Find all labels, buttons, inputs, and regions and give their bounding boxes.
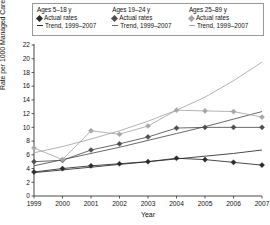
y-axis-tick-label: 22 bbox=[23, 41, 31, 48]
y-axis-tick-label: 18 bbox=[23, 69, 31, 76]
data-point-marker bbox=[117, 141, 122, 146]
data-point-marker bbox=[231, 125, 236, 130]
legend-entry-actual: Actual rates bbox=[37, 14, 108, 22]
data-point-marker bbox=[259, 163, 264, 168]
data-point-marker bbox=[117, 132, 122, 137]
legend-group-ages-5-18: Ages 5–18 y Actual rates Trend, 1999–200… bbox=[33, 4, 108, 35]
data-point-marker bbox=[174, 156, 179, 161]
legend-entry-actual: Actual rates bbox=[112, 14, 185, 22]
data-point-marker bbox=[117, 161, 122, 166]
x-axis-tick-label: 2007 bbox=[255, 200, 270, 207]
legend-group-title: Ages 19–24 y bbox=[112, 6, 185, 14]
data-point-marker bbox=[202, 157, 207, 162]
chart-canvas: 0246810121416182022199920002001200220032… bbox=[0, 38, 270, 225]
y-axis-tick-label: 10 bbox=[23, 124, 31, 131]
legend-entry-label: Trend, 1999–2007 bbox=[45, 22, 96, 30]
line-swatch-icon bbox=[37, 25, 43, 26]
data-point-marker bbox=[88, 147, 93, 152]
y-axis-tick-label: 8 bbox=[26, 137, 30, 144]
y-axis-tick-label: 20 bbox=[23, 55, 31, 62]
legend-entry-label: Trend, 1999–2007 bbox=[120, 22, 171, 30]
data-point-marker bbox=[174, 125, 179, 130]
x-axis-tick-label: 2006 bbox=[226, 200, 241, 207]
data-point-marker bbox=[202, 125, 207, 130]
legend-entry-actual: Actual rates bbox=[189, 14, 263, 22]
data-point-marker bbox=[31, 145, 36, 150]
y-axis-tick-label: 12 bbox=[23, 110, 31, 117]
x-axis-tick-label: 1999 bbox=[27, 200, 42, 207]
data-point-marker bbox=[202, 108, 207, 113]
legend-group-ages-19-24: Ages 19–24 y Actual rates Trend, 1999–20… bbox=[108, 4, 185, 35]
data-point-marker bbox=[145, 159, 150, 164]
legend-group-ages-25-89: Ages 25–89 y Actual rates Trend, 1999–20… bbox=[185, 4, 263, 35]
legend-entry-trend: Trend, 1999–2007 bbox=[112, 22, 185, 30]
x-axis-title: Year bbox=[141, 211, 156, 218]
series-line bbox=[34, 127, 262, 161]
y-axis-title: Rate per 1000 Managed Care Enrollees bbox=[0, 0, 6, 90]
legend-entry-label: Actual rates bbox=[196, 14, 229, 22]
x-axis-tick-label: 2002 bbox=[112, 200, 127, 207]
data-point-marker bbox=[31, 159, 36, 164]
chart-legend: Ages 5–18 y Actual rates Trend, 1999–200… bbox=[32, 3, 264, 36]
data-point-marker bbox=[231, 160, 236, 165]
y-axis-tick-label: 4 bbox=[26, 165, 30, 172]
x-axis-tick-label: 2003 bbox=[141, 200, 156, 207]
diamond-marker-icon bbox=[188, 15, 195, 22]
data-point-marker bbox=[259, 125, 264, 130]
chart-figure: Ages 5–18 y Actual rates Trend, 1999–200… bbox=[0, 0, 270, 225]
legend-entry-label: Actual rates bbox=[44, 14, 77, 22]
data-point-marker bbox=[145, 134, 150, 139]
data-point-marker bbox=[174, 108, 179, 113]
legend-entry-label: Actual rates bbox=[119, 14, 152, 22]
x-axis-tick-label: 2005 bbox=[198, 200, 213, 207]
y-axis-tick-label: 0 bbox=[26, 192, 30, 199]
x-axis-tick-label: 2000 bbox=[55, 200, 70, 207]
line-swatch-icon bbox=[189, 25, 195, 26]
y-axis-tick-label: 16 bbox=[23, 82, 31, 89]
data-point-marker bbox=[231, 109, 236, 114]
legend-entry-trend: Trend, 1999–2007 bbox=[189, 22, 263, 30]
legend-entry-trend: Trend, 1999–2007 bbox=[37, 22, 108, 30]
legend-group-title: Ages 25–89 y bbox=[189, 6, 263, 14]
y-axis-tick-label: 14 bbox=[23, 96, 31, 103]
diamond-marker-icon bbox=[36, 15, 43, 22]
legend-entry-label: Trend, 1999–2007 bbox=[197, 22, 248, 30]
diamond-marker-icon bbox=[111, 15, 118, 22]
x-axis-tick-label: 2004 bbox=[169, 200, 184, 207]
legend-group-title: Ages 5–18 y bbox=[37, 6, 108, 14]
y-axis-tick-label: 2 bbox=[26, 179, 30, 186]
line-swatch-icon bbox=[112, 25, 118, 26]
plot-area: Rate per 1000 Managed Care Enrollees 024… bbox=[0, 38, 270, 225]
data-point-marker bbox=[145, 123, 150, 128]
x-axis-tick-label: 2001 bbox=[84, 200, 99, 207]
y-axis-tick-label: 6 bbox=[26, 151, 30, 158]
data-point-marker bbox=[31, 169, 36, 174]
data-point-marker bbox=[259, 114, 264, 119]
